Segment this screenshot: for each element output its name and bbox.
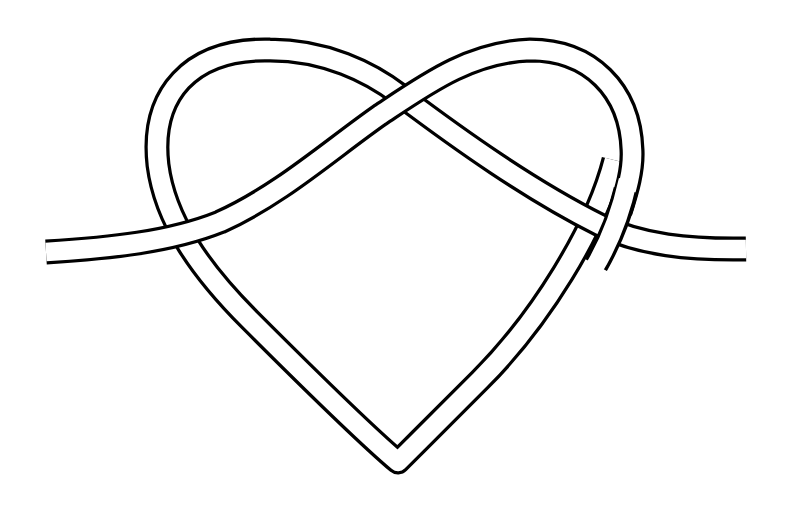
heart-knot-drawing [0,0,794,517]
